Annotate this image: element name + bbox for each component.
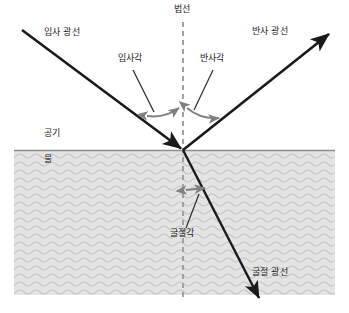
- optics-diagram: 입사 광선 법선 반사 광선 입사각 반사각 공기 물 굴절각 굴절 광선: [0, 0, 349, 313]
- angle-of-reflection-leader: [194, 70, 213, 110]
- angle-of-incidence-arc: [147, 108, 179, 116]
- reflected-ray-label: 반사 광선: [252, 27, 288, 37]
- medium-air-label: 공기: [44, 129, 60, 139]
- reflected-ray-line: [183, 34, 329, 150]
- angle-of-reflection-label: 반사각: [200, 54, 225, 64]
- angle-of-reflection-arc: [187, 108, 219, 118]
- medium-water-label: 물: [44, 155, 52, 165]
- refracted-ray-label: 굴절 광선: [252, 268, 288, 278]
- incident-ray-label: 입사 광선: [44, 28, 80, 38]
- normal-line-label: 법선: [174, 5, 190, 15]
- angle-of-incidence-label: 입사각: [118, 54, 143, 64]
- angle-of-incidence-leader: [133, 70, 154, 112]
- angle-of-refraction-label: 굴절각: [170, 229, 195, 239]
- diagram-canvas: [0, 0, 349, 313]
